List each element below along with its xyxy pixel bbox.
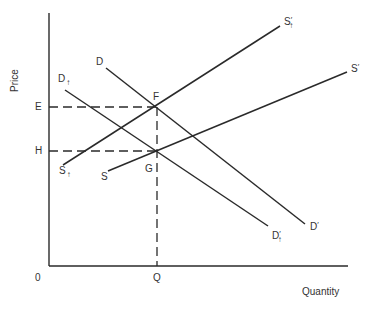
prime-mark: ′ — [317, 220, 319, 229]
t-subscript-arrow-icon: ↑ — [67, 170, 71, 179]
curve-label-D-prime: D′ — [310, 222, 319, 233]
curve-label-S-prime-text: S — [351, 63, 358, 74]
curve-label-St-text: S — [59, 165, 66, 176]
supply-demand-diagram — [0, 0, 366, 312]
quantity-label-Q: Q — [153, 273, 161, 283]
x-axis-label: Quantity — [302, 287, 339, 297]
point-label-F: F — [153, 92, 159, 102]
curve-label-St: S↑ — [59, 166, 71, 177]
curve-label-St-prime: S′↑ — [284, 17, 293, 28]
point-label-G: G — [145, 164, 153, 174]
curve-label-Dt-prime: D′↑ — [272, 231, 282, 242]
curve-label-S-prime: S′ — [351, 64, 359, 75]
t-subscript-arrow-icon: ↑ — [66, 78, 70, 87]
origin-label: 0 — [35, 273, 41, 283]
price-label-E: E — [35, 102, 42, 112]
curve-label-Dt-text: D — [58, 73, 65, 84]
curve-label-S: S — [101, 172, 108, 182]
supply-curve-S — [108, 72, 347, 171]
demand-curve-D — [106, 68, 305, 224]
prime-mark: ′ — [358, 62, 360, 71]
price-label-H: H — [35, 146, 42, 156]
y-axis-label: Price — [10, 69, 20, 92]
curve-label-Dt: D↑ — [58, 74, 70, 85]
t-subscript-arrow-icon: ↑ — [278, 235, 282, 244]
curve-label-D: D — [96, 57, 103, 67]
demand-curve-Dt — [65, 90, 268, 226]
t-subscript-arrow-icon: ↑ — [289, 21, 293, 30]
